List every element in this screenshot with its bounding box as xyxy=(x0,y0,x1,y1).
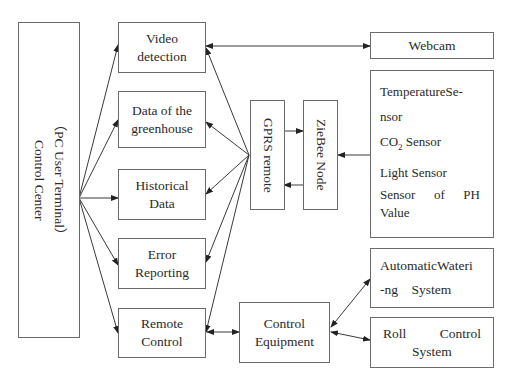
sensor-temperature-label: TemperatureSe- xyxy=(380,79,463,104)
webcam-box: Webcam xyxy=(370,32,494,59)
module-label: Control xyxy=(141,333,182,351)
control-center-title: Control Center xyxy=(30,140,48,221)
module-label: Error xyxy=(148,246,176,264)
zigbee-node-box: ZieBee Node xyxy=(303,100,338,210)
control-equipment-box: Control Equipment xyxy=(239,302,330,363)
historical-data-box: Historical Data xyxy=(118,169,206,220)
roll-label: Roll Control xyxy=(383,325,481,343)
ph-word: Sensor xyxy=(380,185,415,205)
module-label: greenhouse xyxy=(131,120,192,138)
roll-label-cont: System xyxy=(412,343,452,361)
module-label: Data of the xyxy=(132,102,192,120)
greenhouse-data-box: Data of the greenhouse xyxy=(118,91,206,148)
co2-suffix: Sensor xyxy=(403,134,442,149)
co2-prefix: CO xyxy=(380,134,398,149)
module-label: Remote xyxy=(141,315,183,333)
zigbee-label: ZieBee Node xyxy=(312,119,330,191)
roll-control-box: Roll Control System xyxy=(370,317,494,368)
equipment-label: Equipment xyxy=(255,333,314,351)
sensor-light-label: Light Sensor xyxy=(380,160,447,185)
sensor-ph-label: Sensor of PH xyxy=(380,185,480,205)
error-reporting-box: Error Reporting xyxy=(118,238,206,289)
roll-word: Control xyxy=(440,325,481,343)
module-label: Data xyxy=(149,195,174,213)
watering-label: AutomaticWateri xyxy=(380,254,473,278)
module-label: Video xyxy=(146,30,178,48)
equipment-label: Control xyxy=(264,315,305,333)
control-center-subtitle: （PC User Terminal） xyxy=(50,117,68,242)
remote-control-box: Remote Control xyxy=(118,308,206,358)
sensor-temperature-label-cont: nsor xyxy=(380,104,402,129)
sensor-co2-label: CO2 Sensor xyxy=(380,129,441,160)
sensor-ph-label-cont: Value xyxy=(380,205,410,221)
ph-word: PH xyxy=(463,185,480,205)
module-label: detection xyxy=(137,48,186,66)
roll-word: Roll xyxy=(383,325,406,343)
watering-label-cont: -ng System xyxy=(380,278,451,302)
webcam-label: Webcam xyxy=(409,37,456,55)
gprs-remote-box: GPRS remote xyxy=(250,100,285,210)
video-detection-box: Video detection xyxy=(118,22,206,73)
module-label: Reporting xyxy=(135,264,189,282)
sensors-box: TemperatureSe- nsor CO2 Sensor Light Sen… xyxy=(370,70,494,238)
automatic-watering-box: AutomaticWateri -ng System xyxy=(370,248,494,308)
gprs-label: GPRS remote xyxy=(259,118,277,193)
control-center-box: （PC User Terminal） Control Center xyxy=(18,22,80,338)
ph-word: of xyxy=(434,185,445,205)
module-label: Historical xyxy=(135,177,188,195)
